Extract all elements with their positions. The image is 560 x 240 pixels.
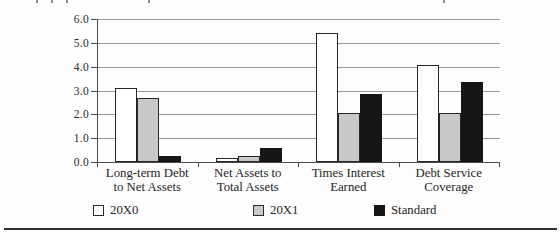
legend-swatch-standard — [374, 205, 385, 216]
legend-label: 20X1 — [270, 204, 298, 217]
gridline — [98, 91, 500, 92]
y-axis-tick — [91, 114, 97, 115]
plot-area — [97, 19, 500, 163]
y-axis-tick-label: 1.0 — [59, 132, 89, 144]
y-axis-tick-label: 4.0 — [59, 61, 89, 73]
crop-artifact — [36, 0, 38, 3]
category-label-line1: Debt Service — [384, 167, 514, 181]
y-axis-tick — [91, 91, 97, 92]
crop-artifact — [148, 0, 150, 3]
bar-20x1-2 — [238, 156, 260, 162]
category-label-line2: Coverage — [384, 181, 514, 195]
gridline — [98, 67, 500, 68]
legend-swatch-20x0 — [93, 205, 104, 216]
y-axis-tick-label: 6.0 — [59, 13, 89, 25]
gridline — [98, 43, 500, 44]
y-axis-tick-label: 2.0 — [59, 108, 89, 120]
bar-20x0-2 — [216, 158, 238, 162]
financial-ratios-bar-chart-figure: 0.01.02.03.04.05.06.0 Long-term Debtto N… — [0, 0, 560, 240]
y-axis-tick — [91, 138, 97, 139]
bar-20x0-4 — [417, 65, 439, 162]
bar-20x1-4 — [439, 113, 461, 162]
y-axis-tick — [91, 43, 97, 44]
gridline — [98, 19, 500, 20]
bar-standard-1 — [159, 156, 181, 162]
y-axis-tick — [91, 19, 97, 20]
legend-swatch-20x1 — [253, 205, 264, 216]
legend-label: 20X0 — [110, 204, 138, 217]
crop-artifact — [51, 0, 53, 3]
bar-20x1-3 — [338, 113, 360, 162]
y-axis-tick-label: 5.0 — [59, 37, 89, 49]
bar-20x1-1 — [137, 98, 159, 162]
bar-standard-3 — [360, 94, 382, 162]
y-axis-tick — [91, 67, 97, 68]
page-divider-rule — [4, 228, 557, 230]
legend-label: Standard — [391, 204, 437, 217]
y-axis-tick-label: 3.0 — [59, 85, 89, 97]
crop-artifact — [443, 0, 445, 3]
crop-artifact — [66, 0, 68, 3]
category-label: Debt ServiceCoverage — [384, 167, 514, 194]
bar-20x0-3 — [316, 33, 338, 162]
bar-standard-4 — [461, 82, 483, 162]
bar-20x0-1 — [115, 88, 137, 162]
bar-standard-2 — [260, 148, 282, 162]
